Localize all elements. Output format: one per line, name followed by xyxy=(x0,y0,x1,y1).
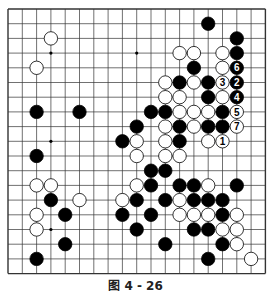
white-stone xyxy=(159,76,172,89)
white-stone xyxy=(159,135,172,148)
white-stone xyxy=(116,193,129,206)
black-stone xyxy=(230,179,243,192)
white-stone xyxy=(187,105,200,118)
white-stone xyxy=(44,32,57,45)
white-stone xyxy=(230,238,243,251)
black-stone xyxy=(116,208,129,221)
star-point xyxy=(135,52,138,55)
black-stone xyxy=(173,120,186,133)
white-stone xyxy=(202,105,215,118)
black-stone xyxy=(144,179,157,192)
white-stone xyxy=(230,208,243,221)
black-stone xyxy=(173,179,186,192)
white-stone xyxy=(130,149,143,162)
move-number-label: 6 xyxy=(234,62,240,73)
white-stone xyxy=(202,135,215,148)
black-stone xyxy=(30,149,43,162)
black-stone xyxy=(216,238,229,251)
black-stone xyxy=(116,135,129,148)
star-point xyxy=(49,140,52,143)
white-stone xyxy=(159,120,172,133)
black-stone xyxy=(202,223,215,236)
black-stone xyxy=(159,238,172,251)
black-stone xyxy=(58,238,71,251)
black-stone xyxy=(130,223,143,236)
white-stone xyxy=(30,179,43,192)
white-stone xyxy=(202,179,215,192)
black-stone xyxy=(73,105,86,118)
white-stone xyxy=(216,223,229,236)
black-stone xyxy=(130,193,143,206)
black-stone xyxy=(30,105,43,118)
black-stone xyxy=(202,193,215,206)
black-stone xyxy=(202,252,215,265)
black-stone xyxy=(216,105,229,118)
black-stone xyxy=(202,120,215,133)
black-stone xyxy=(144,208,157,221)
star-point xyxy=(49,52,52,55)
black-stone xyxy=(159,193,172,206)
black-stone xyxy=(230,32,243,45)
black-stone xyxy=(187,193,200,206)
move-number-label: 7 xyxy=(234,121,240,132)
white-stone xyxy=(130,135,143,148)
white-stone xyxy=(30,61,43,74)
black-stone xyxy=(216,120,229,133)
move-number-label: 5 xyxy=(234,107,240,118)
white-stone xyxy=(187,46,200,59)
white-stone xyxy=(173,105,186,118)
black-stone xyxy=(30,252,43,265)
black-stone xyxy=(144,105,157,118)
white-stone xyxy=(73,193,86,206)
black-stone xyxy=(216,193,229,206)
black-stone xyxy=(202,17,215,30)
white-stone xyxy=(173,91,186,104)
white-stone xyxy=(30,208,43,221)
white-stone xyxy=(173,149,186,162)
white-stone xyxy=(202,208,215,221)
white-stone xyxy=(159,91,172,104)
black-stone xyxy=(216,208,229,221)
white-stone xyxy=(244,252,257,265)
figure-caption: 图 4 - 26 xyxy=(0,276,271,293)
white-stone xyxy=(216,61,229,74)
white-stone xyxy=(187,76,200,89)
black-stone xyxy=(187,223,200,236)
white-stone xyxy=(173,208,186,221)
black-stone xyxy=(202,76,215,89)
white-stone xyxy=(187,208,200,221)
black-stone xyxy=(130,120,143,133)
white-stone xyxy=(130,179,143,192)
move-number-label: 2 xyxy=(234,77,240,88)
black-stone xyxy=(187,61,200,74)
white-stone xyxy=(159,149,172,162)
white-stone xyxy=(173,46,186,59)
black-stone xyxy=(159,164,172,177)
black-stone xyxy=(202,91,215,104)
move-number-label: 3 xyxy=(220,77,226,88)
move-number-label: 4 xyxy=(234,92,240,103)
white-stone xyxy=(187,120,200,133)
white-stone xyxy=(230,223,243,236)
black-stone xyxy=(230,46,243,59)
white-stone xyxy=(216,91,229,104)
black-stone xyxy=(159,105,172,118)
white-stone xyxy=(44,179,57,192)
white-stone xyxy=(173,193,186,206)
star-point xyxy=(49,228,52,231)
black-stone xyxy=(144,164,157,177)
move-number-label: 1 xyxy=(220,136,226,147)
white-stone xyxy=(30,223,43,236)
black-stone xyxy=(173,76,186,89)
white-stone xyxy=(216,46,229,59)
black-stone xyxy=(44,193,57,206)
black-stone xyxy=(173,135,186,148)
black-stone xyxy=(58,208,71,221)
black-stone xyxy=(187,179,200,192)
